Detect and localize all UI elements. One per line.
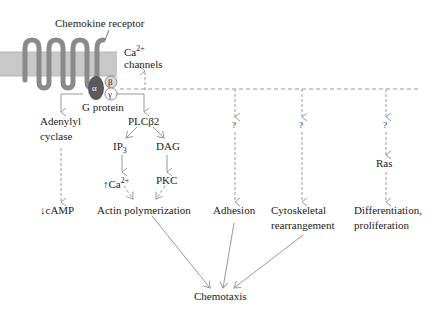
dag-label: DAG <box>156 140 180 153</box>
ca-increase-label: ↑Ca2+ <box>103 174 129 191</box>
ca-channels-label-2: channels <box>124 58 162 71</box>
adenylyl-cyclase-label-1: Adenylyl <box>40 115 81 128</box>
g-protein-label: G protein <box>82 101 124 114</box>
cytoskeletal-label-2: rearrangement <box>271 219 335 232</box>
gamma-symbol: γ <box>108 88 112 101</box>
unknown-adhesion: ? <box>232 119 236 132</box>
ca-channels-label: Ca2+ <box>124 42 145 59</box>
adhesion-label: Adhesion <box>213 204 255 217</box>
chemokine-receptor-label: Chemokine receptor <box>55 17 145 30</box>
actin-polymerization-label: Actin polymerization <box>97 204 191 217</box>
cytoskeletal-label-1: Cytoskeletal <box>271 204 326 217</box>
alpha-symbol: α <box>92 82 97 95</box>
ras-label: Ras <box>376 157 393 170</box>
unknown-cytoskeletal: ? <box>299 119 303 132</box>
differentiation-label-1: Differentiation, <box>354 204 422 217</box>
chemotaxis-label: Chemotaxis <box>194 290 247 303</box>
differentiation-label-2: proliferation <box>354 219 409 232</box>
camp-decrease-label: ↓cAMP <box>40 204 74 217</box>
ip3-label: IP3 <box>113 140 127 157</box>
adenylyl-cyclase-label-2: cyclase <box>40 130 72 143</box>
plcb2-label: PLCβ2 <box>128 115 159 128</box>
unknown-differentiation: ? <box>383 119 387 132</box>
pkc-label: PKC <box>156 174 177 187</box>
